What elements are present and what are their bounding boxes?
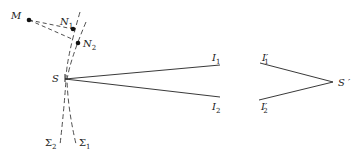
ray-i1p-sp xyxy=(260,63,333,82)
label-sigma2: Σ2 xyxy=(45,137,57,151)
label-n2: N2 xyxy=(82,38,96,52)
label-s-prime: S ′ xyxy=(338,77,351,88)
label-i2: I2 xyxy=(211,101,220,115)
optics-diagram: M N1 N2 S I1 I2 I′1 I′2 S ′ Σ2 Σ1 xyxy=(0,0,359,152)
ray-s-i2 xyxy=(65,79,220,97)
label-i1: I1 xyxy=(211,52,220,66)
label-sigma1: Σ1 xyxy=(79,137,91,151)
ray-s-i1 xyxy=(65,65,220,79)
label-i2-prime: I′2 xyxy=(260,101,268,115)
label-s: S xyxy=(52,73,59,84)
point-m xyxy=(27,18,32,23)
ray-i2p-sp xyxy=(259,82,333,100)
label-m: M xyxy=(10,10,22,21)
point-n2 xyxy=(76,41,81,46)
